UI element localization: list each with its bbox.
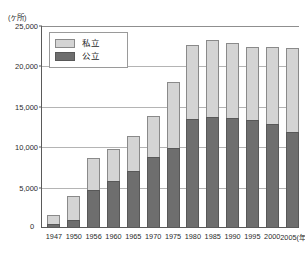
legend-swatch-public-icon: [55, 52, 75, 61]
stacked-bar-chart: (ヶ所) 0 5,00010,00015,00020,00025,000 194…: [0, 0, 305, 264]
bar-segment-public: [286, 132, 299, 227]
bar-group: [226, 43, 239, 227]
bar-segment-private: [186, 45, 199, 119]
bar-segment-private: [147, 116, 160, 156]
bar-segment-public: [107, 181, 120, 227]
x-axis-tick-label: 1956: [85, 232, 101, 241]
bar-segment-private: [67, 196, 80, 220]
x-axis-tick-label: 1985: [205, 232, 221, 241]
x-axis-tick-label: 2005(年): [280, 232, 305, 242]
bar-group: [147, 116, 160, 227]
bar-segment-public: [246, 120, 259, 227]
x-axis-tick-label: 1995: [244, 232, 260, 241]
bar-segment-public: [266, 124, 279, 227]
y-axis-tick-label: 20,000: [15, 62, 38, 71]
bar-segment-public: [127, 171, 140, 227]
bar-segment-private: [286, 48, 299, 131]
bar-segment-public: [226, 118, 239, 227]
bar-group: [87, 158, 100, 227]
chart-legend: 私立 公立: [49, 32, 128, 68]
y-axis-zero-label: 0: [30, 222, 34, 231]
bar-segment-private: [127, 136, 140, 172]
x-axis-tick-label: 1990: [224, 232, 240, 241]
x-axis-tick-label: 2000: [264, 232, 280, 241]
bar-group: [186, 45, 199, 227]
bar-segment-public: [147, 157, 160, 227]
bar-group: [127, 136, 140, 227]
bar-segment-private: [226, 43, 239, 118]
legend-label-public: 公立: [82, 52, 100, 61]
y-axis-tick-label: 15,000: [15, 102, 38, 111]
bar-group: [47, 215, 60, 227]
x-axis-tick-label: 1980: [185, 232, 201, 241]
bar-group: [266, 47, 279, 227]
bar-segment-public: [87, 190, 100, 227]
bar-segment-private: [167, 82, 180, 148]
bar-segment-private: [206, 40, 219, 118]
bar-segment-public: [167, 148, 180, 227]
legend-label-private: 私立: [82, 39, 100, 48]
bar-group: [167, 82, 180, 227]
bar-group: [246, 47, 259, 227]
x-axis-tick-label: 1965: [125, 232, 141, 241]
x-axis-tick-label: 1960: [105, 232, 121, 241]
bar-segment-private: [107, 149, 120, 181]
bar-segment-private: [266, 47, 279, 125]
bar-group: [206, 40, 219, 227]
bar-segment-public: [206, 117, 219, 227]
legend-item-public: 公立: [55, 50, 122, 63]
x-axis-tick-label: 1950: [66, 232, 82, 241]
bar-segment-private: [246, 47, 259, 121]
legend-item-private: 私立: [55, 37, 122, 50]
bar-segment-public: [186, 119, 199, 227]
y-axis-tick-label: 5,000: [19, 183, 38, 192]
bar-group: [107, 149, 120, 227]
y-axis-unit-caption: (ヶ所): [8, 11, 26, 22]
bar-segment-private: [87, 158, 100, 190]
x-axis-tick-label: 1970: [145, 232, 161, 241]
y-axis-tick-label: 10,000: [15, 143, 38, 152]
bar-group: [67, 196, 80, 228]
bar-segment-public: [67, 220, 80, 227]
legend-swatch-private-icon: [55, 39, 75, 48]
bar-segment-private: [47, 215, 60, 224]
bar-segment-public: [47, 224, 60, 227]
x-axis-tick-label: 1947: [46, 232, 62, 241]
y-axis-tick-label: 25,000: [15, 22, 38, 31]
bar-group: [286, 48, 299, 227]
x-axis-tick-label: 1975: [165, 232, 181, 241]
